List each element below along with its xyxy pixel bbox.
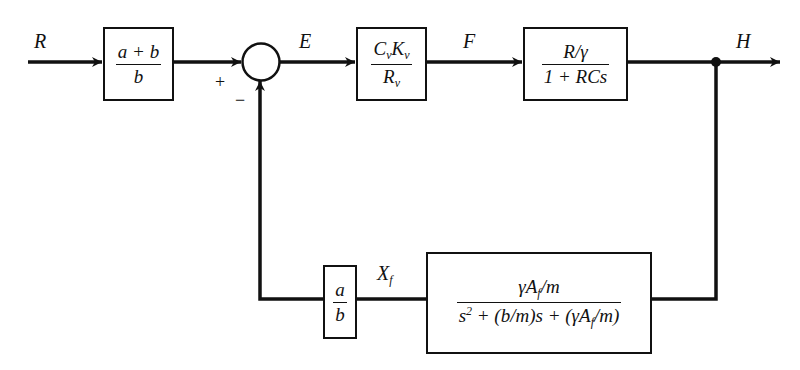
xf-sub: f — [389, 273, 392, 287]
pickoff-point — [711, 57, 721, 67]
actuator-fraction: γAf/m s2 + (b/m)s + (γAf/m) — [457, 277, 622, 328]
plus-sign: + — [215, 72, 225, 93]
v-sub: v — [395, 76, 400, 90]
prefilter-denominator: b — [132, 67, 146, 87]
fraction-bar — [116, 64, 161, 65]
signal-label-e: E — [299, 30, 311, 53]
summing-junction — [243, 44, 280, 81]
feedback-path-left — [260, 81, 323, 299]
signal-label-xf: Xf — [377, 262, 393, 288]
xf-main: X — [377, 262, 389, 284]
over-m: /m — [541, 276, 560, 297]
signal-label-h: H — [736, 30, 750, 53]
gamma-a: γA — [518, 276, 537, 297]
r-symbol: R — [383, 66, 395, 87]
tank-denominator: 1 + RCs — [542, 67, 610, 87]
signal-label-f: F — [463, 30, 475, 53]
v-sub: v — [404, 48, 409, 62]
den-end: /m) — [594, 305, 619, 326]
fraction-bar — [333, 302, 347, 303]
valve-block: CvKv Rv — [356, 27, 427, 101]
valve-fraction: CvKv Rv — [371, 39, 411, 89]
s-symbol: s — [459, 305, 466, 326]
tank-numerator: R/γ — [561, 42, 589, 62]
c-symbol: C — [373, 38, 386, 59]
tank-fraction: R/γ 1 + RCs — [542, 42, 610, 87]
valve-numerator: CvKv — [371, 39, 411, 62]
minus-sign: − — [235, 90, 245, 111]
prefilter-fraction: a + b b — [116, 42, 161, 87]
signal-label-r: R — [34, 30, 46, 53]
actuator-denominator: s2 + (b/m)s + (γAf/m) — [457, 305, 622, 329]
den-middle: + (b/m)s + (γA — [472, 305, 591, 326]
gain-numerator: a — [333, 280, 347, 300]
fraction-bar — [457, 302, 622, 303]
k-symbol: K — [392, 38, 405, 59]
fraction-bar — [542, 64, 610, 65]
feedback-gain-fraction: a b — [333, 280, 347, 325]
feedback-path-right — [651, 62, 716, 299]
gain-denominator: b — [333, 305, 347, 325]
prefilter-block: a + b b — [103, 27, 174, 101]
actuator-numerator: γAf/m — [516, 277, 561, 300]
valve-denominator: Rv — [381, 67, 402, 90]
fraction-bar — [371, 64, 411, 65]
tank-block: R/γ 1 + RCs — [523, 27, 628, 101]
prefilter-numerator: a + b — [116, 42, 161, 62]
feedback-gain-block: a b — [323, 265, 357, 339]
actuator-block: γAf/m s2 + (b/m)s + (γAf/m) — [426, 252, 652, 354]
